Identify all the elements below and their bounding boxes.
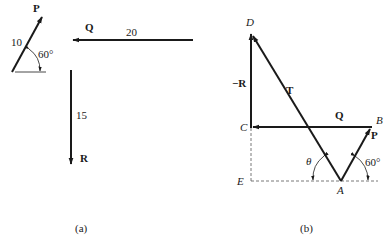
caption-a: (a): [75, 222, 88, 235]
vector-p-label: P: [33, 2, 40, 14]
panel-b: −R T Q P θ 60° D C B E A (b): [232, 16, 383, 235]
point-a-label: A: [336, 184, 344, 196]
vector-q-label: Q: [85, 21, 94, 33]
caption-b: (b): [300, 222, 313, 235]
angle-label-theta: θ: [306, 155, 312, 167]
vector-t-label: T: [286, 84, 294, 96]
vector-q-label-b: Q: [335, 109, 344, 121]
point-e-label: E: [236, 175, 244, 187]
point-b-label: B: [376, 114, 383, 126]
angle-label-60: 60°: [38, 48, 53, 60]
vector-r-label: R: [80, 152, 89, 164]
vector-p-magnitude: 10: [11, 36, 23, 48]
vector-t-arrow: [253, 36, 341, 181]
vector-neg-r-label: −R: [232, 77, 247, 89]
panel-a: P 10 60° Q 20 15 R (a): [11, 2, 193, 235]
angle-label-60-b: 60°: [365, 156, 380, 168]
vector-p-label-b: P: [371, 129, 378, 141]
vector-p-arrow-b: [341, 129, 370, 181]
point-d-label: D: [245, 16, 254, 28]
vector-q-magnitude: 20: [126, 26, 138, 38]
vector-r-magnitude: 15: [76, 109, 88, 121]
angle-arc-theta: [313, 156, 324, 180]
point-c-label: C: [240, 121, 248, 133]
vector-diagram: P 10 60° Q 20 15 R (a) −R T Q P: [0, 0, 391, 244]
